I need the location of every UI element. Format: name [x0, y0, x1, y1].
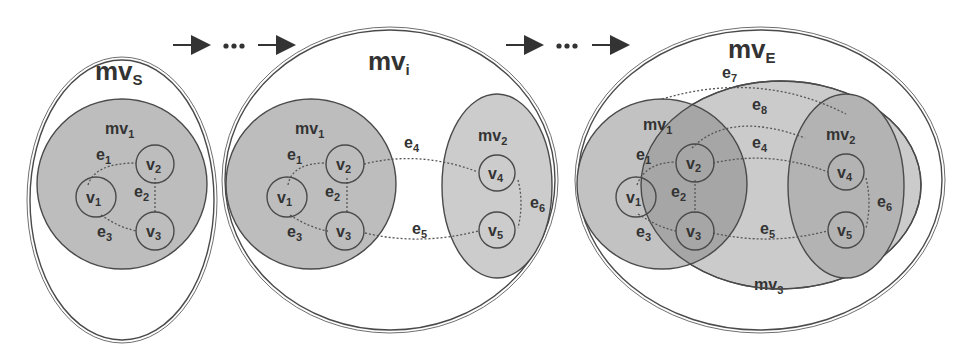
- mv2-region: [788, 94, 904, 278]
- mv2-region: [442, 94, 552, 278]
- panel-mvS: mvS mv1 e1 e2 e3 v1 v2 v3: [27, 56, 217, 343]
- ellipsis-icon: [223, 43, 244, 48]
- panel-mvE: mvE mv3 mv1 mv2 e7 e8 e1 e2 e3 e4 e5 e6: [575, 27, 945, 333]
- ellipsis-icon: [556, 43, 577, 48]
- panel-mvi: mvi mv1 mv2 e1 e2 e3 e4 e5 e6 v1 v2 v3 v…: [222, 27, 558, 333]
- mvi-title: mvi: [368, 46, 410, 78]
- hypergraph-diagram: mvS mv1 e1 e2 e3 v1 v2 v3 mvi mv1 mv2: [0, 0, 960, 355]
